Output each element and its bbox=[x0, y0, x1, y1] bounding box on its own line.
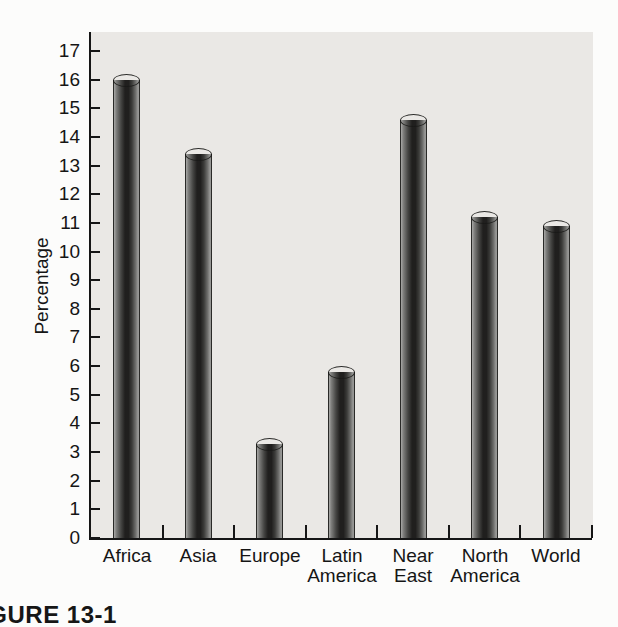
x-tick-5 bbox=[448, 525, 450, 538]
x-tick-6 bbox=[519, 525, 521, 538]
bar-europe bbox=[256, 438, 283, 538]
y-tick-label-0: 0 bbox=[26, 527, 80, 549]
y-tick-label-15: 15 bbox=[26, 97, 80, 119]
x-label-line: America bbox=[437, 566, 533, 586]
x-tick-2 bbox=[233, 525, 235, 538]
y-tick-11 bbox=[91, 222, 100, 224]
y-tick-8 bbox=[91, 308, 100, 310]
bar-cap-africa bbox=[113, 74, 140, 87]
y-tick-13 bbox=[91, 165, 100, 167]
bar-cap-latin-america bbox=[328, 366, 355, 379]
y-tick-0 bbox=[91, 537, 100, 539]
bar-cap-north-america bbox=[471, 211, 498, 224]
y-tick-3 bbox=[91, 451, 100, 453]
bar-body-latin-america bbox=[328, 372, 355, 538]
bar-north-america bbox=[471, 211, 498, 538]
x-tick-4 bbox=[376, 525, 378, 538]
bar-near-east bbox=[400, 114, 427, 538]
bar-world bbox=[543, 220, 570, 538]
bar-cap-asia bbox=[185, 148, 212, 161]
y-tick-label-3: 3 bbox=[26, 441, 80, 463]
bar-body-asia bbox=[185, 154, 212, 538]
y-tick-label-16: 16 bbox=[26, 69, 80, 91]
y-tick-2 bbox=[91, 480, 100, 482]
y-tick-10 bbox=[91, 251, 100, 253]
y-tick-17 bbox=[91, 50, 100, 52]
x-axis bbox=[89, 538, 592, 540]
bar-body-world bbox=[543, 226, 570, 538]
y-tick-label-2: 2 bbox=[26, 470, 80, 492]
figure-caption-fragment: FIGURE 13-1 bbox=[0, 601, 117, 627]
y-tick-14 bbox=[91, 136, 100, 138]
y-tick-label-14: 14 bbox=[26, 126, 80, 148]
y-tick-16 bbox=[91, 79, 100, 81]
bar-latin-america bbox=[328, 366, 355, 538]
y-tick-label-17: 17 bbox=[26, 40, 80, 62]
y-tick-6 bbox=[91, 365, 100, 367]
y-tick-label-1: 1 bbox=[26, 498, 80, 520]
bar-body-near-east bbox=[400, 120, 427, 538]
bar-body-europe bbox=[256, 444, 283, 538]
y-tick-15 bbox=[91, 107, 100, 109]
bar-body-africa bbox=[113, 80, 140, 538]
bar-africa bbox=[113, 74, 140, 538]
x-label-world: World bbox=[508, 546, 604, 566]
bar-asia bbox=[185, 148, 212, 538]
x-label-line: World bbox=[508, 546, 604, 566]
y-axis-title: Percentage bbox=[30, 176, 54, 396]
x-tick-3 bbox=[305, 525, 307, 538]
y-tick-label-4: 4 bbox=[26, 412, 80, 434]
y-tick-5 bbox=[91, 394, 100, 396]
bar-cap-near-east bbox=[400, 114, 427, 127]
x-tick-1 bbox=[162, 525, 164, 538]
y-tick-label-13: 13 bbox=[26, 155, 80, 177]
y-tick-12 bbox=[91, 193, 100, 195]
y-tick-9 bbox=[91, 279, 100, 281]
bar-body-north-america bbox=[471, 217, 498, 538]
x-tick-7 bbox=[591, 525, 593, 538]
y-tick-1 bbox=[91, 508, 100, 510]
y-tick-7 bbox=[91, 336, 100, 338]
bar-cap-europe bbox=[256, 438, 283, 451]
bar-cap-world bbox=[543, 220, 570, 233]
y-tick-4 bbox=[91, 422, 100, 424]
